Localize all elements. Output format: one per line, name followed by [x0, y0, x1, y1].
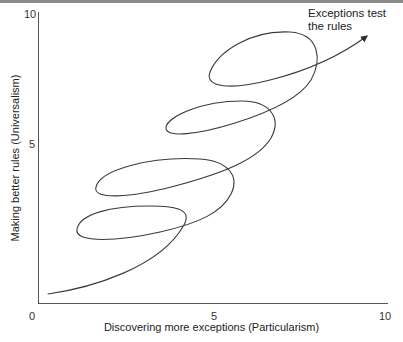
y-tick-5: 5	[29, 139, 35, 150]
y-axis-title: Making better rules (Universalism)	[9, 75, 21, 242]
x-axis-title: Discovering more exceptions (Particulari…	[0, 321, 403, 333]
spiral-diagram	[0, 0, 403, 342]
y-tick-10: 10	[24, 9, 36, 20]
annotation-label: Exceptions test the rules	[308, 7, 400, 33]
spiral-curve	[48, 32, 367, 294]
